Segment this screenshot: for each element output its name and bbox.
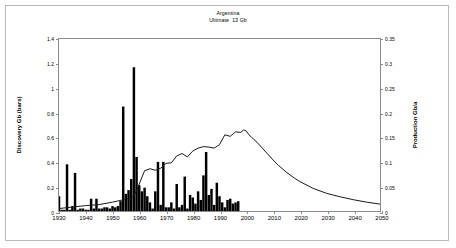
x-axis-tick: [113, 211, 114, 214]
x-axis-tick-label: 1940: [79, 215, 92, 221]
discovery-bar: [197, 191, 199, 211]
discovery-bar: [175, 184, 177, 211]
left-axis-title-text: Discovery Gb (bars): [16, 96, 22, 153]
discovery-bar: [66, 164, 68, 211]
x-axis-tick-label: 2020: [295, 215, 308, 221]
discovery-bar: [202, 175, 204, 211]
discovery-bar: [63, 210, 65, 211]
chart-frame: Argentina Ultimate 13 Gb Discovery Gb (b…: [5, 5, 449, 241]
discovery-bar: [205, 152, 207, 211]
discovery-bar: [119, 201, 121, 211]
x-axis-tick-label: 1950: [106, 215, 119, 221]
discovery-bar: [208, 195, 210, 211]
chart-title-main: Argentina: [6, 10, 450, 17]
chart-title: Argentina Ultimate 13 Gb: [6, 10, 450, 24]
discovery-bar: [127, 190, 129, 211]
x-axis-tick: [274, 211, 275, 214]
chart-subtitle: Ultimate 13 Gb: [6, 17, 450, 24]
x-axis-tick-label: 2040: [348, 215, 361, 221]
x-axis-tick-label: 1990: [214, 215, 227, 221]
discovery-bar: [178, 207, 180, 211]
discovery-bar: [130, 179, 132, 211]
discovery-bar: [159, 205, 161, 211]
discovery-bar: [194, 204, 196, 211]
discovery-bar: [216, 183, 218, 211]
discovery-bar: [135, 157, 137, 211]
x-axis-tick: [247, 211, 248, 214]
discovery-bar: [200, 200, 202, 211]
discovery-bar: [143, 188, 145, 211]
discovery-bar: [151, 209, 153, 211]
right-axis-tick: [380, 114, 383, 115]
x-axis-tick: [59, 211, 60, 214]
discovery-bar: [117, 206, 119, 211]
discovery-bar: [173, 209, 175, 211]
discovery-bar: [68, 210, 70, 211]
x-axis-tick: [194, 211, 195, 214]
left-axis-tick: [56, 188, 59, 189]
discovery-bar: [125, 194, 127, 211]
discovery-bar: [210, 189, 212, 211]
discovery-bar: [103, 207, 105, 211]
right-axis-tick-label: 0.1: [385, 160, 392, 166]
x-axis-tick-label: 2010: [268, 215, 281, 221]
right-axis-tick: [380, 138, 383, 139]
left-axis-tick-label: 0.2: [47, 185, 54, 191]
discovery-bar: [101, 209, 103, 211]
x-axis-tick-label: 1970: [160, 215, 173, 221]
left-axis-tick-label: 0.4: [47, 160, 54, 166]
discovery-bar: [162, 162, 164, 211]
discovery-bar: [170, 202, 172, 211]
discovery-bar: [146, 196, 148, 211]
right-axis-tick: [380, 64, 383, 65]
x-axis-tick: [382, 211, 383, 214]
left-axis-tick: [56, 64, 59, 65]
x-axis-tick-label: 1930: [52, 215, 65, 221]
left-axis-tick-label: 1: [51, 86, 54, 92]
x-axis-tick: [328, 211, 329, 214]
discovery-bar: [167, 207, 169, 211]
discovery-bars: [59, 67, 239, 211]
x-axis-tick-label: 2000: [241, 215, 254, 221]
right-axis-title-text: Production Gb/a: [412, 102, 418, 149]
right-axis-tick-label: 0.3: [385, 61, 392, 67]
discovery-bar: [237, 201, 239, 211]
discovery-bar: [106, 207, 108, 211]
x-axis-tick-label: 1980: [187, 215, 200, 221]
right-axis-tick-label: 0.15: [385, 135, 395, 141]
discovery-bar: [87, 210, 89, 211]
x-axis-tick: [301, 211, 302, 214]
discovery-bar: [60, 210, 62, 211]
x-axis-tick: [355, 211, 356, 214]
x-axis-tick: [167, 211, 168, 214]
right-axis-tick: [380, 188, 383, 189]
left-axis-tick: [56, 163, 59, 164]
left-axis-tick-label: 0.6: [47, 135, 54, 141]
discovery-bar: [189, 195, 191, 211]
left-axis-tick: [56, 138, 59, 139]
right-axis-tick-label: 0.05: [385, 185, 395, 191]
discovery-bar: [133, 67, 135, 211]
discovery-bar: [183, 177, 185, 211]
discovery-bar: [192, 197, 194, 211]
right-axis-title: Production Gb/a: [410, 38, 420, 212]
right-axis-tick: [380, 163, 383, 164]
discovery-bar: [82, 209, 84, 211]
x-axis-tick-label: 2030: [321, 215, 334, 221]
discovery-bar: [122, 107, 124, 211]
discovery-bar: [114, 207, 116, 211]
discovery-bar: [226, 200, 228, 211]
x-axis-tick: [86, 211, 87, 214]
left-axis-tick: [56, 89, 59, 90]
discovery-bar: [232, 204, 234, 211]
discovery-bar: [138, 185, 140, 211]
x-axis-tick-label: 1960: [133, 215, 146, 221]
right-axis-tick: [380, 39, 383, 40]
discovery-bar: [186, 209, 188, 211]
discovery-bar: [218, 196, 220, 211]
chart-canvas: [59, 39, 380, 211]
right-axis-tick-label: 0.2: [385, 111, 392, 117]
discovery-bar: [74, 173, 76, 211]
left-axis-title: Discovery Gb (bars): [14, 38, 24, 212]
discovery-bar: [213, 205, 215, 211]
